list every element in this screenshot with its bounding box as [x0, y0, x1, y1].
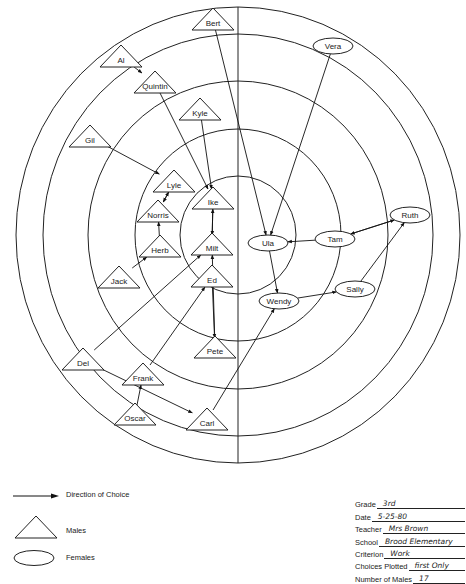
node-label: Herb [151, 246, 169, 255]
legend-females: Females [0, 548, 250, 572]
legend-males-label: Males [66, 526, 86, 535]
male-node-herb: Herb [139, 235, 181, 257]
ellipse-icon [12, 548, 58, 568]
female-node-ula: Ula [248, 235, 288, 251]
node-label: Milt [206, 244, 219, 253]
male-node-jack: Jack [98, 266, 140, 288]
choice-ike-to-milt [212, 209, 213, 235]
male-node-carl: Carl [186, 408, 228, 430]
choice-del-to-milt [94, 255, 201, 350]
sociogram-diagram: BertAlQuintinKyleGilLyleIkeNorrisHerbMil… [0, 0, 466, 470]
node-label: Del [77, 359, 89, 368]
male-node-pete: Pete [194, 336, 236, 358]
female-node-sally: Sally [335, 281, 375, 297]
male-node-al: Al [100, 45, 142, 67]
node-label: Wendy [267, 297, 292, 306]
info-choices-plotted: Choices Plottedfirst Only [355, 559, 465, 571]
info-number-of-males: Number of Males17 [355, 571, 465, 583]
node-label: Ike [208, 198, 219, 207]
choice-tam-to-ula [288, 240, 315, 242]
node-label: Tam [327, 235, 342, 244]
male-node-frank: Frank [122, 363, 164, 385]
arrow-icon [12, 492, 60, 500]
legend: Direction of Choice Males Females [0, 480, 250, 580]
node-label: Ruth [402, 211, 419, 220]
male-node-kyle: Kyle [179, 98, 221, 120]
female-node-tam: Tam [315, 231, 355, 247]
choice-sally-to-ruth [361, 223, 405, 282]
node-label: Al [117, 56, 124, 65]
node-label: Gil [85, 136, 95, 145]
choice-al-to-quintin [134, 67, 142, 73]
choice-ula-to-wendy [270, 251, 278, 293]
legend-direction: Direction of Choice [0, 488, 250, 512]
node-label: Pete [207, 347, 224, 356]
female-node-vera: Vera [313, 38, 353, 54]
node-label: Ula [262, 239, 275, 248]
info-form: Grade3rd Date5-25-80 TeacherMrs Brown Sc… [355, 497, 465, 584]
triangle-icon [13, 514, 59, 540]
male-node-lyle: Lyle [153, 170, 195, 192]
male-node-norris: Norris [137, 200, 179, 222]
node-label: Sally [346, 285, 363, 294]
node-label: Kyle [192, 109, 208, 118]
male-node-ike: Ike [192, 187, 234, 209]
node-label: Frank [133, 374, 154, 383]
node-label: Quintin [142, 82, 167, 91]
node-label: Bert [206, 19, 221, 28]
male-node-bert: Bert [192, 8, 234, 30]
male-node-ed: Ed [191, 265, 233, 287]
node-label: Lyle [167, 181, 182, 190]
node-label: Carl [200, 419, 215, 428]
legend-females-label: Females [66, 553, 95, 562]
choice-frank-to-ed [150, 287, 205, 365]
male-node-gil: Gil [69, 125, 111, 147]
info-criterion: CriterionWork [355, 547, 465, 559]
choice-wendy-to-sally [298, 292, 337, 298]
info-teacher: TeacherMrs Brown [355, 522, 465, 534]
legend-males: Males [0, 514, 250, 538]
node-label: Oscar [124, 414, 146, 423]
info-grade: Grade3rd [355, 497, 465, 509]
choice-vera-to-ula [271, 54, 331, 235]
node-label: Jack [111, 277, 128, 286]
node-label: Norris [147, 211, 168, 220]
info-date: Date5-25-80 [355, 509, 465, 521]
info-school: SchoolBrood Elementary [355, 534, 465, 546]
choice-gil-to-lyle [105, 145, 160, 174]
node-label: Vera [325, 42, 342, 51]
female-node-wendy: Wendy [259, 293, 299, 309]
male-node-milt: Milt [191, 233, 233, 255]
node-label: Ed [207, 276, 217, 285]
choice-carl-to-wendy [213, 309, 274, 410]
male-node-quintin: Quintin [134, 71, 176, 93]
student-nodes: BertAlQuintinKyleGilLyleIkeNorrisHerbMil… [62, 8, 430, 430]
female-node-ruth: Ruth [390, 207, 430, 223]
choice-herb-to-norris [159, 222, 160, 237]
choice-norris-to-lyle [163, 192, 168, 202]
male-node-del: Del [62, 348, 104, 370]
legend-direction-label: Direction of Choice [66, 490, 129, 499]
